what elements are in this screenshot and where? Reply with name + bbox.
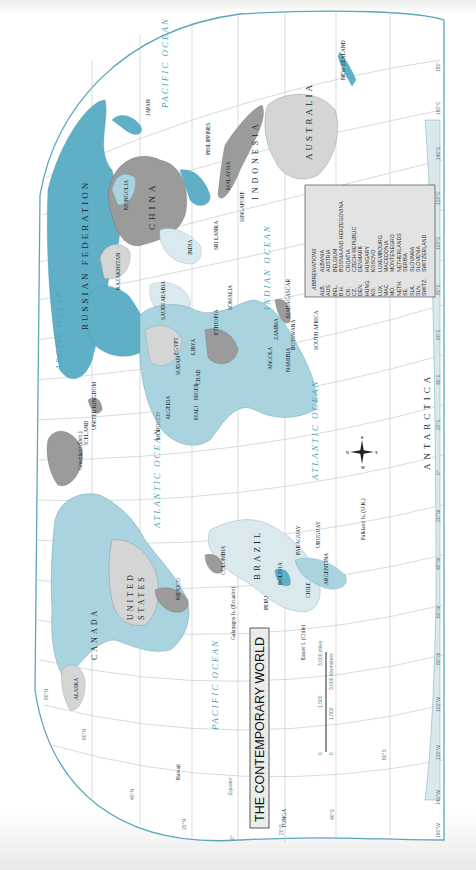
- label-egypt: EGYPT: [173, 337, 179, 355]
- label-singapore: SINGAPORE: [239, 190, 245, 222]
- legend-abbr-name: KOSOVO: [370, 250, 376, 273]
- legend-abbr-name: MACEDONIA: [383, 240, 389, 272]
- legend-abbr-code: LUX.: [377, 284, 383, 296]
- label-bolivia: BOLIVIA: [277, 562, 283, 585]
- legend-abbr-code: MO.: [389, 286, 395, 296]
- label-china: CHINA: [147, 182, 157, 231]
- legend-abbr-name: SERBIA: [402, 252, 408, 272]
- svg-text:80°E: 80°E: [435, 283, 441, 295]
- legend-abbr-name: CROATIA: [345, 249, 351, 272]
- svg-text:60°N: 60°N: [81, 728, 87, 740]
- svg-text:140°W: 140°W: [435, 790, 441, 805]
- svg-text:100°W: 100°W: [435, 697, 441, 712]
- legend-abbr-code: SE.: [402, 288, 408, 296]
- label-madagascar: MADAGASCAR: [285, 279, 291, 318]
- svg-text:0°: 0°: [229, 835, 235, 840]
- label-south-africa: SOUTH AFRICA: [313, 310, 319, 350]
- label-brazil: BRAZIL: [252, 530, 262, 581]
- label-niger: NIGER: [193, 383, 199, 400]
- label-kazakhstan: KAZAKHSTAN: [115, 253, 121, 290]
- svg-text:180°: 180°: [435, 62, 441, 72]
- legend-abbr-code: NETH.: [396, 280, 402, 296]
- label-galapagos: Galapagos Is. (Ecuador): [230, 587, 237, 640]
- label-hawaii: Hawaii: [175, 764, 181, 780]
- legend-abbr-name: SWITZERLAND: [421, 235, 427, 272]
- label-indonesia: INDONESIA: [251, 120, 260, 200]
- label-uruguay: URUGUAY: [315, 521, 321, 548]
- svg-text:60°W: 60°W: [435, 605, 441, 618]
- svg-text:20°S: 20°S: [278, 823, 284, 835]
- svg-text:40°E: 40°E: [435, 373, 441, 385]
- svg-text:40°W: 40°W: [435, 557, 441, 570]
- legend-abbr-code: HUNG.: [364, 279, 370, 296]
- svg-text:40°S: 40°S: [329, 808, 335, 820]
- svg-text:N: N: [346, 450, 349, 455]
- svg-text:0: 0: [317, 752, 323, 755]
- svg-text:80°W: 80°W: [435, 652, 441, 665]
- label-united-states-1: UNITED: [126, 572, 135, 620]
- label-morocco: MOROCCO: [155, 412, 161, 440]
- legend-abbr-name: BELGIUM: [332, 249, 338, 272]
- world-map: PACIFIC OCEAN PACIFIC OCEAN ATLANTIC OCE…: [0, 0, 476, 870]
- legend-abbr-name: NETHERLANDS: [396, 233, 402, 272]
- svg-text:160°E: 160°E: [435, 101, 441, 115]
- label-new-zealand: NEW ZEALAND: [340, 40, 346, 80]
- label-mali: MALI: [193, 406, 199, 420]
- legend-abbr-code: CR.: [345, 287, 351, 296]
- legend-abbr-name: MONTENEGRO: [389, 234, 395, 272]
- svg-text:20°W: 20°W: [435, 509, 441, 522]
- svg-text:20°N: 20°N: [181, 818, 187, 830]
- label-mongolia: MONGOLIA: [123, 180, 129, 210]
- ocean-label-pacific-west: PACIFIC OCEAN: [210, 639, 220, 731]
- legend-abbr-code: B.H.: [338, 286, 344, 296]
- label-japan: JAPAN: [145, 99, 151, 116]
- label-somalia: SOMALIA: [227, 285, 233, 310]
- label-iceland: ICELAND: [83, 421, 89, 445]
- svg-text:120°W: 120°W: [435, 745, 441, 760]
- label-angola: ANGOLA: [267, 347, 273, 370]
- ocean-label-atlantic-north: ATLANTIC OCEAN: [152, 428, 162, 529]
- legend-abbr-code: KO.: [370, 287, 376, 296]
- svg-text:0: 0: [328, 752, 334, 755]
- label-antarctica: ANTARCTICA: [422, 373, 432, 470]
- label-chad: CHAD: [195, 369, 201, 385]
- svg-text:1,500: 1,500: [317, 695, 323, 708]
- legend-abbr-code: AUS.: [325, 284, 331, 296]
- svg-text:1,500: 1,500: [328, 707, 334, 720]
- legend-abbr-name: ALBANIA: [319, 250, 325, 272]
- label-sudan: SUDAN: [175, 356, 181, 375]
- label-argentina: ARGENTINA: [323, 553, 329, 585]
- ocean-label-indian: INDIAN OCEAN: [262, 224, 272, 311]
- legend-abbr-code: MAC.: [383, 283, 389, 296]
- ocean-label-pacific-east: PACIFIC OCEAN: [160, 17, 170, 109]
- label-united-kingdom: UNITED KINGDOM: [91, 381, 97, 430]
- label-russian-federation: RUSSIAN FEDERATION: [80, 180, 90, 330]
- label-zambia: ZAMBIA: [273, 318, 279, 340]
- svg-text:20°E: 20°E: [435, 418, 441, 430]
- abbreviations-legend: ABBREVIATIONS ALB.ALBANIAAUS.AUSTRIABEL.…: [305, 185, 435, 297]
- label-philippines: PHILIPPINES: [205, 123, 211, 155]
- legend-abbr-name: LUXEMBOURG: [377, 235, 383, 272]
- label-sri-lanka: SRI LANKA: [213, 221, 219, 250]
- legend-abbr-name: CZECH REPUBLIC: [351, 226, 357, 272]
- label-malaysia: MALAYSIA: [225, 161, 231, 190]
- label-falkland-islands: Falkland Is. (U.K.): [360, 498, 367, 540]
- legend-abbr-name: SLOVENIA: [415, 246, 421, 272]
- equator-label: Equator: [227, 777, 233, 795]
- label-easter-island: Easter I. (Chile): [300, 625, 307, 660]
- legend-abbr-code: SWITZ.: [421, 278, 427, 296]
- ocean-label-atlantic-south: ATLANTIC OCEAN: [310, 380, 320, 481]
- label-saudi-arabia: SAUDI ARABIA: [160, 281, 166, 320]
- svg-text:60°S: 60°S: [381, 748, 387, 760]
- legend-abbr-name: HUNGARY: [364, 246, 370, 272]
- legend-abbr-name: SLOVAKIA: [409, 246, 415, 272]
- label-algeria: ALGERIA: [165, 396, 171, 420]
- svg-text:E: E: [361, 435, 364, 440]
- svg-text:W: W: [361, 465, 365, 470]
- label-mexico: MEXICO: [175, 578, 181, 600]
- label-alaska: ALASKA: [73, 678, 79, 700]
- label-libya: LIBYA: [190, 339, 196, 355]
- legend-abbr-name: DENMARK: [357, 246, 363, 272]
- label-united-states-2: STATES: [137, 574, 146, 620]
- legend-abbr-name: AUSTRIA: [325, 249, 331, 272]
